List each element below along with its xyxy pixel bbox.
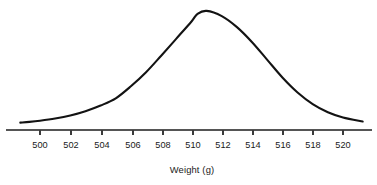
x-axis-tick-label: 506 xyxy=(125,140,141,150)
normal-curve-path xyxy=(20,11,362,123)
x-axis-tick-label: 504 xyxy=(94,140,110,150)
x-axis-tick-label: 502 xyxy=(63,140,79,150)
x-axis-tick-label: 518 xyxy=(305,140,321,150)
distribution-curve-group xyxy=(20,11,362,123)
x-axis-tick-label: 500 xyxy=(32,140,48,150)
x-axis-tick-label: 520 xyxy=(335,140,351,150)
x-axis-tick-label: 514 xyxy=(245,140,261,150)
x-axis-tick-label: 512 xyxy=(215,140,231,150)
x-axis-ticks xyxy=(40,130,343,135)
x-axis-tick-label: 508 xyxy=(155,140,171,150)
chart-plot-area: 500502504506508510512514516518520 Weight… xyxy=(0,0,377,185)
x-axis-title: Weight (g) xyxy=(170,164,215,175)
normal-distribution-chart: 500502504506508510512514516518520 Weight… xyxy=(0,0,377,185)
x-axis-tick-labels: 500502504506508510512514516518520 xyxy=(32,140,351,150)
x-axis-tick-label: 510 xyxy=(185,140,201,150)
x-axis-tick-label: 516 xyxy=(275,140,291,150)
